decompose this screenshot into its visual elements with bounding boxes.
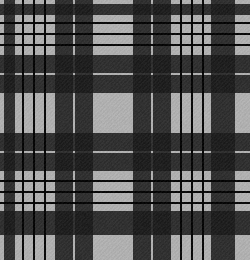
tartan-pattern-canvas	[0, 0, 250, 260]
tartan-swatch: Grayscale Tartan Plaid Swatch balanced t…	[0, 0, 250, 260]
